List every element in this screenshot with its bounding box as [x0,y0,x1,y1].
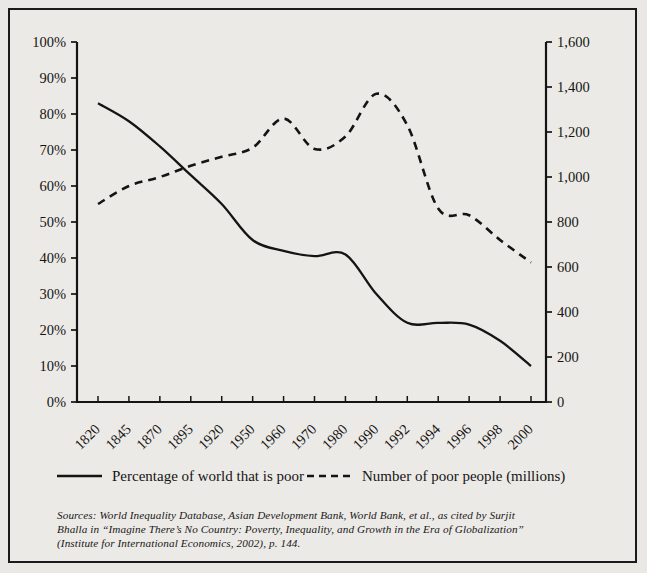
right-tick-label: 1,400 [557,79,590,95]
right-tick-label: 400 [557,304,579,320]
right-tick-label: 1,600 [557,34,590,50]
x-tick-label: 1895 [164,421,196,453]
left-tick-label: 20% [39,322,66,338]
legend-label-number-poor: Number of poor people (millions) [362,468,565,485]
source-note-line-1: Sources: World Inequality Database, Asia… [57,508,602,522]
right-tick-label: 600 [557,259,579,275]
poverty-chart-svg: 0%10%20%30%40%50%60%70%80%90%100% 020040… [10,10,635,561]
series-line-percentage-poor [98,103,531,366]
chart-area: 0%10%20%30%40%50%60%70%80%90%100% 020040… [10,10,635,561]
right-tick-label: 1,200 [557,124,590,140]
right-axis-tick-labels: 02004006008001,0001,2001,4001,600 [557,34,590,410]
x-tick-label: 1820 [71,421,103,453]
x-tick-label: 1990 [350,421,382,453]
x-tick-label: 1994 [412,420,444,452]
x-tick-label: 1950 [226,421,258,453]
x-tick-label: 1970 [288,421,320,453]
left-tick-label: 50% [39,214,66,230]
left-tick-label: 80% [39,106,66,122]
x-tick-label: 1960 [257,421,289,453]
left-tick-label: 10% [39,358,66,374]
series-line-number-poor [98,94,531,263]
x-tick-label: 1845 [102,421,134,453]
left-tick-label: 90% [39,70,66,86]
x-tick-label: 1992 [381,421,413,453]
source-note-line-3: (Institute for International Economics, … [57,536,602,550]
x-tick-label: 1980 [319,421,351,453]
x-tick-label: 2000 [504,421,536,453]
left-tick-label: 70% [39,142,66,158]
right-tick-label: 200 [557,349,579,365]
right-tick-label: 800 [557,214,579,230]
source-note: Sources: World Inequality Database, Asia… [57,508,602,551]
left-tick-label: 60% [39,178,66,194]
legend-label-percentage-poor: Percentage of world that is poor [112,468,304,484]
left-tick-label: 100% [32,34,66,50]
source-note-line-2: Bhalla in “Imagine There’s No Country: P… [57,522,602,536]
chart-legend: Percentage of world that is poorNumber o… [57,468,565,485]
right-tick-label: 1,000 [557,169,590,185]
x-tick-label: 1870 [133,421,165,453]
chart-series [98,94,531,366]
left-axis-tick-labels: 0%10%20%30%40%50%60%70%80%90%100% [32,34,66,410]
x-tick-label: 1920 [195,421,227,453]
x-tick-label: 1998 [473,421,505,453]
right-tick-label: 0 [557,394,564,410]
left-tick-label: 30% [39,286,66,302]
figure-frame: 0%10%20%30%40%50%60%70%80%90%100% 020040… [8,8,637,563]
left-tick-label: 0% [47,394,66,410]
x-tick-label: 1996 [442,421,474,453]
x-axis-tick-labels: 1820184518701895192019501960197019801990… [71,420,536,452]
left-tick-label: 40% [39,250,66,266]
